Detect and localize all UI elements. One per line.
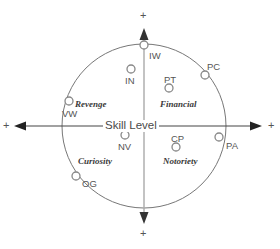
data-point-label-vw: VW — [62, 109, 77, 119]
data-point-marker-cp[interactable] — [172, 143, 180, 151]
data-point-marker-pt[interactable] — [165, 84, 173, 92]
data-point-marker-vw[interactable] — [65, 97, 73, 105]
quadrant-label-notoriety: Notoriety — [163, 157, 198, 166]
quadrant-label-revenge: Revenge — [75, 100, 107, 109]
plus-sign-left: + — [3, 120, 9, 131]
data-point-marker-in[interactable] — [127, 65, 135, 73]
data-point-label-iw: IW — [149, 51, 161, 61]
data-point-marker-nv[interactable] — [121, 131, 129, 139]
data-point-label-pc: PC — [207, 62, 220, 72]
quadrant-label-financial: Financial — [160, 100, 197, 109]
plus-sign-top: + — [140, 10, 146, 21]
vertical-axis-arrow-bottom — [140, 212, 149, 224]
diagram-canvas: + + + + Skill Level IWINPTPCVWNVCPPAOGRe… — [0, 0, 280, 249]
skill-level-axis-label: Skill Level — [103, 120, 159, 132]
data-point-marker-pc[interactable] — [201, 71, 209, 79]
data-point-label-pt: PT — [164, 75, 176, 85]
data-point-label-og: OG — [82, 179, 97, 189]
data-point-label-in: IN — [125, 76, 135, 86]
data-point-marker-og[interactable] — [72, 172, 80, 180]
data-point-marker-pa[interactable] — [215, 133, 223, 141]
data-point-label-nv: NV — [118, 142, 131, 152]
quadrant-label-curiosity: Curiosity — [78, 157, 112, 166]
horizontal-axis-arrow-right — [250, 122, 262, 131]
data-point-label-pa: PA — [226, 141, 238, 151]
plus-sign-bottom: + — [140, 228, 146, 239]
data-point-marker-iw[interactable] — [140, 41, 148, 49]
data-point-label-cp: CP — [171, 134, 184, 144]
vertical-axis-arrow-top — [140, 28, 149, 40]
plus-sign-right: + — [268, 120, 274, 131]
horizontal-axis-arrow-left — [14, 122, 26, 131]
